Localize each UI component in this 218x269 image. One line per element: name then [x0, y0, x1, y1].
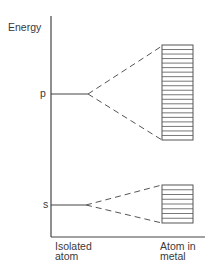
- p-level: [51, 46, 162, 140]
- s-level-label: s: [43, 199, 48, 210]
- energy-band-diagram: [0, 0, 218, 269]
- isolated-atom-label-line2: atom: [55, 251, 78, 262]
- s-band: [162, 185, 193, 223]
- energy-axis-label: Energy: [8, 22, 41, 33]
- p-level-label: p: [40, 88, 46, 99]
- s-level: [51, 185, 162, 223]
- p-band: [162, 45, 193, 140]
- atom-in-metal-label-line2: metal: [160, 251, 186, 262]
